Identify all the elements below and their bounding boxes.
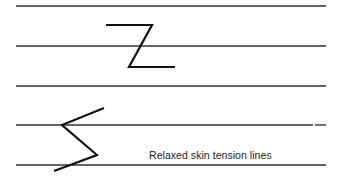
zigzag-incision xyxy=(54,108,104,171)
tension-lines xyxy=(16,6,326,165)
diagram-caption: Relaxed skin tension lines xyxy=(149,149,272,161)
